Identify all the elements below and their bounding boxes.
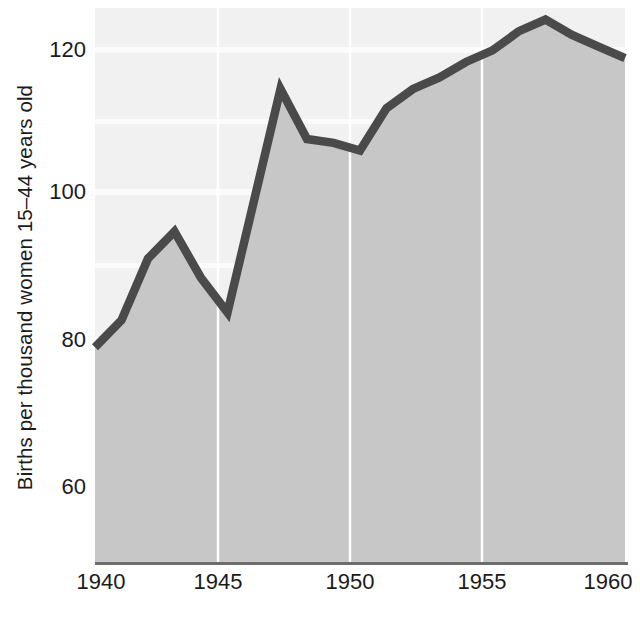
birth-rate-area-chart: Births per thousand women 15–44 years ol… (0, 0, 640, 619)
x-tick-label-1955: 1955 (458, 569, 507, 595)
plot-area (0, 0, 640, 619)
x-tick-label-1945: 1945 (194, 569, 243, 595)
x-tick-label-1960: 1960 (584, 569, 633, 595)
x-tick-label-1950: 1950 (326, 569, 375, 595)
x-tick-label-1940: 1940 (77, 569, 126, 595)
